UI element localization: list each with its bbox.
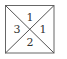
square-diagram: 1 1 2 3 [0, 0, 67, 59]
region-top-label: 1 [27, 11, 34, 24]
region-left-label: 3 [14, 23, 21, 36]
region-right-label: 1 [40, 23, 47, 36]
region-bottom-label: 2 [27, 36, 34, 49]
